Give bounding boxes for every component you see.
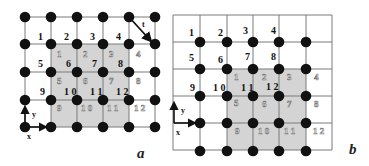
lattice-atom-dot	[20, 39, 31, 50]
cell-label: 3	[90, 31, 95, 42]
shifted-cell-label: 1 2	[313, 126, 325, 136]
cell-label: 3	[243, 25, 248, 36]
cell-label: 5	[38, 58, 43, 69]
shifted-cell-label: 8	[314, 99, 319, 109]
lattice-atom-dot	[98, 12, 109, 23]
shifted-cell-label: 1 0	[81, 103, 93, 113]
lattice-atom-dot	[274, 118, 285, 129]
panel-label: b	[349, 141, 357, 157]
lattice-atom-dot	[46, 39, 57, 50]
shifted-cell-label: 5	[234, 98, 239, 108]
shifted-cell-label: 4	[136, 49, 141, 59]
shifted-cell-label: 3	[287, 72, 292, 82]
lattice-atom-dot	[301, 146, 312, 157]
lattice-atom-dot	[150, 12, 161, 23]
shifted-cell-label: 1 2	[134, 103, 146, 113]
shifted-cell-label: 7	[109, 76, 114, 86]
cell-label: 2	[64, 31, 69, 42]
lattice-atom-dot	[20, 95, 31, 106]
lattice-atom-dot	[301, 118, 312, 129]
cell-label: 7	[92, 58, 97, 69]
lattice-atom-dot	[222, 91, 233, 102]
shifted-cell-label: 1	[234, 72, 239, 82]
lattice-atom-dot	[72, 67, 83, 78]
lattice-atom-dot	[72, 95, 83, 106]
shifted-cell-label: 1 1	[107, 103, 119, 113]
shifted-cell-label: 4	[314, 72, 319, 82]
lattice-atom-dot	[20, 122, 31, 133]
shifted-cell-label: 3	[109, 49, 114, 59]
cell-label: 1	[38, 31, 43, 42]
lattice-atom-dot	[20, 12, 31, 23]
cell-label: 8	[271, 51, 276, 62]
translation-vector-arrow-icon	[129, 17, 150, 40]
cell-label: 9	[40, 86, 45, 97]
lattice-atom-dot	[195, 91, 206, 102]
x-axis-label: x	[176, 128, 180, 137]
lattice-atom-dot	[222, 146, 233, 157]
cell-label: 4	[116, 31, 121, 42]
lattice-atom-dot	[98, 39, 109, 50]
shifted-cell-label: 6	[262, 99, 267, 109]
shifted-cell-label: 5	[57, 76, 62, 86]
lattice-atom-dot	[72, 12, 83, 23]
lattice-atom-dot	[124, 95, 135, 106]
cell-label: 1 2	[266, 81, 279, 92]
shifted-cell-label: 1	[57, 49, 62, 59]
shifted-cell-label: 9	[235, 126, 240, 136]
cell-label: 4	[271, 25, 276, 36]
lattice-atom-dot	[195, 37, 206, 48]
lattice-atom-dot	[150, 95, 161, 106]
shifted-cell-label: 6	[83, 76, 88, 86]
lattice-atom-dot	[46, 122, 57, 133]
panel-label: a	[137, 145, 145, 161]
lattice-atom-dot	[98, 67, 109, 78]
lattice-atom-dot	[124, 122, 135, 133]
shifted-cell-label: 9	[57, 103, 62, 113]
y-axis-label: y	[181, 106, 185, 115]
lattice-atom-dot	[248, 91, 259, 102]
cell-label: 5	[189, 52, 194, 63]
lattice-atom-dot	[72, 122, 83, 133]
cell-label: 8	[118, 58, 123, 69]
lattice-atom-dot	[274, 64, 285, 75]
lattice-atom-dot	[124, 39, 135, 50]
lattice-atom-dot	[124, 67, 135, 78]
lattice-atom-dot	[20, 67, 31, 78]
shifted-cell-label: 1 0	[258, 126, 270, 136]
lattice-atom-dot	[222, 118, 233, 129]
lattice-atom-dot	[195, 118, 206, 129]
cell-label: 2	[218, 27, 223, 38]
shifted-cell-label: 2	[83, 49, 88, 59]
shifted-cell-label: 1 1	[284, 126, 296, 136]
lattice-atom-dot	[301, 64, 312, 75]
x-axis-label: x	[27, 132, 31, 141]
lattice-atom-dot	[195, 64, 206, 75]
lattice-atom-dot	[72, 39, 83, 50]
lattice-atom-dot	[150, 122, 161, 133]
cell-label: 1	[189, 27, 194, 38]
lattice-atom-dot	[46, 95, 57, 106]
lattice-atom-dot	[248, 64, 259, 75]
lattice-atom-dot	[195, 146, 206, 157]
lattice-atom-dot	[248, 37, 259, 48]
lattice-atom-dot	[274, 37, 285, 48]
y-axis-label: y	[32, 110, 36, 119]
lattice-atom-dot	[274, 91, 285, 102]
translation-vector-label: t	[142, 20, 145, 29]
lattice-atom-dot	[98, 122, 109, 133]
shifted-cell-label: 7	[287, 99, 292, 109]
lattice-atom-dot	[150, 67, 161, 78]
lattice-atom-dot	[301, 37, 312, 48]
lattice-atom-dot	[46, 67, 57, 78]
cell-label: 9	[190, 82, 195, 93]
lattice-atom-dot	[98, 95, 109, 106]
cell-label: 1 0	[213, 82, 226, 93]
panel-b: 1234567891 01 11 21234567891 01 11 2xyb	[173, 15, 357, 157]
lattice-atom-dot	[274, 146, 285, 157]
shifted-cell-label: 8	[136, 76, 141, 86]
diagram-canvas: 1234567891 01 11 21234567891 01 11 2xyta…	[0, 0, 369, 166]
panel-a: 1234567891 01 11 21234567891 01 11 2xyta	[20, 12, 161, 161]
lattice-atom-dot	[150, 39, 161, 50]
lattice-atom-dot	[248, 118, 259, 129]
